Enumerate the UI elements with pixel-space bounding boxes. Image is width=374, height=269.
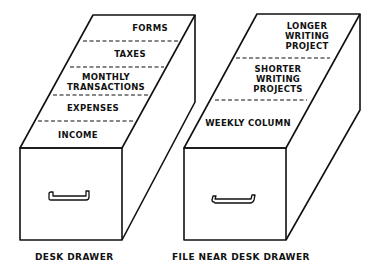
section-label-shorter-writing-projects: SHORTER WRITING PROJECTS (243, 64, 313, 94)
caption-file-near-desk-drawer: FILE NEAR DESK DRAWER (172, 252, 310, 262)
section-label-line: PROJECTS (243, 84, 313, 94)
section-label-line: PROJECT (277, 41, 337, 51)
section-label-taxes: TAXES (100, 49, 160, 59)
section-label-line: MONTHLY (66, 72, 146, 82)
section-label-line: WRITING (243, 74, 313, 84)
section-label-line: LONGER (277, 21, 337, 31)
section-label-line: WRITING (277, 31, 337, 41)
caption-desk-drawer: DESK DRAWER (35, 252, 114, 262)
section-label-line: SHORTER (243, 64, 313, 74)
section-label-income: INCOME (48, 130, 108, 140)
section-label-longer-writing-project: LONGER WRITING PROJECT (277, 21, 337, 51)
section-label-forms: FORMS (120, 23, 180, 33)
section-label-monthly-transactions: MONTHLY TRANSACTIONS (66, 72, 146, 92)
section-label-weekly-column: WEEKLY COLUMN (203, 118, 293, 128)
section-label-line: TRANSACTIONS (66, 82, 146, 92)
right-drawer-handle-icon (212, 195, 255, 203)
section-label-expenses: EXPENSES (63, 103, 123, 113)
left-drawer-handle-icon (49, 191, 89, 200)
